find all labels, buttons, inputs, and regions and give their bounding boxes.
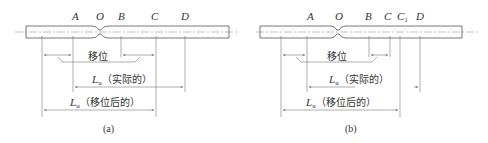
point-label-b: B (365, 10, 372, 22)
point-label-b: B (118, 10, 125, 22)
panel-a: A O B C D 移位 Lu（实际的） Lu（移位后的） (a) (15, 10, 237, 135)
tensile-specimen-diagram: A O B C D 移位 Lu（实际的） Lu（移位后的） (a) A (0, 0, 488, 143)
point-label-d: D (415, 10, 424, 22)
panel-b: A O B C C1 D 移位 Lu（实际的） Lu（移位后的） (b) (256, 10, 478, 135)
point-label-a: A (306, 10, 314, 22)
panel-caption-a: (a) (103, 123, 114, 135)
point-label-o: O (335, 10, 343, 22)
lu-shifted-label: Lu（移位后的） (69, 96, 140, 110)
lu-actual-label: Lu（实际的） (328, 73, 389, 87)
point-label-o: O (96, 10, 104, 22)
shift-label: 移位 (88, 50, 108, 62)
point-label-c: C (151, 10, 159, 22)
point-label-c1: C1 (397, 10, 408, 24)
panel-caption-b: (b) (345, 123, 357, 135)
lu-actual-label: Lu（实际的） (91, 73, 152, 87)
point-label-a: A (71, 10, 79, 22)
lu-shifted-label: Lu（移位后的） (305, 96, 376, 110)
point-label-d: D (180, 10, 189, 22)
shift-label: 移位 (327, 50, 347, 62)
point-label-c: C (384, 10, 392, 22)
